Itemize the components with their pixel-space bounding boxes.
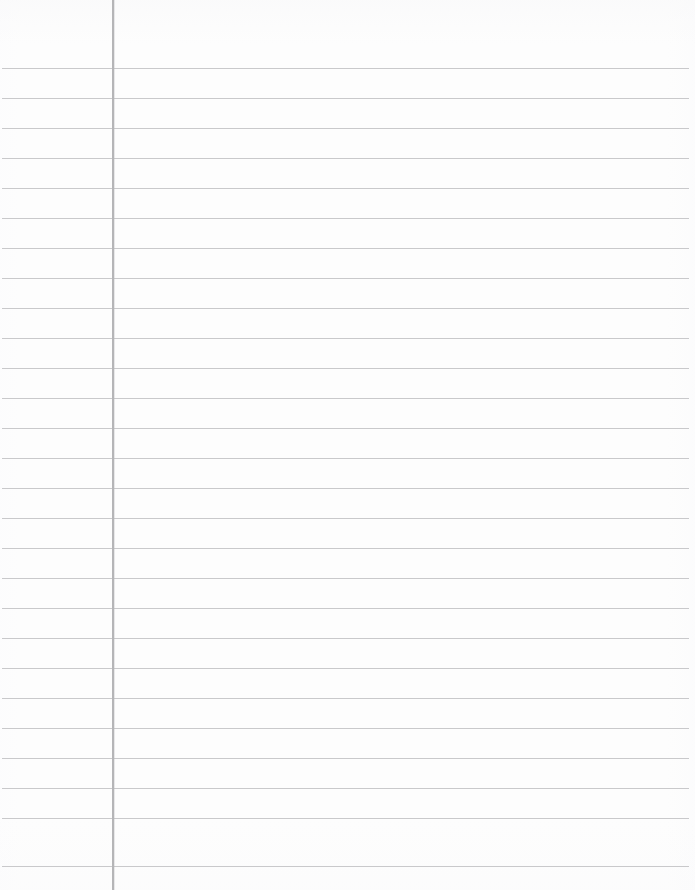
writing-area[interactable] <box>0 0 695 890</box>
lined-paper-sheet <box>0 0 695 890</box>
